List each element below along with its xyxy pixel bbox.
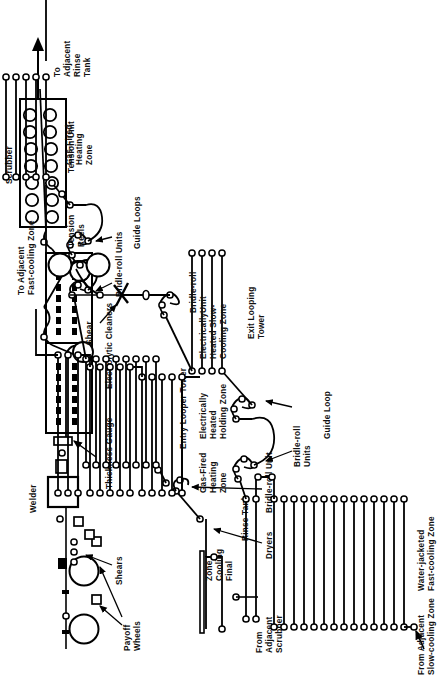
label-payoff-wheels-line2: Wheels — [133, 621, 142, 651]
tension-reel-1 — [49, 254, 72, 277]
label-from-slow-cooling-line1: From Adjacent — [417, 615, 426, 675]
payoff-guide-roll-1 — [63, 613, 69, 619]
label-tension-reels-line2: Reels — [77, 224, 86, 247]
label-water-jacketed-line1: Water-jacketed — [417, 530, 426, 591]
label-bridle-units-exit-line1: Bridle-roll — [293, 426, 302, 467]
thickness-gauge-head — [54, 437, 72, 445]
label-gas-fired-line3: Zone — [85, 144, 94, 165]
label-gas-fired-line1: Gas-Fired — [65, 125, 74, 165]
shear-roll-1 — [71, 559, 77, 565]
label-payoff-wheels-line1: Payoff — [123, 624, 132, 651]
welder-aux-1 — [56, 460, 67, 473]
bridle-entry-roll-2 — [177, 477, 183, 483]
label-shear-exit: Shear — [85, 320, 94, 345]
rinse-tank-lip — [200, 551, 204, 633]
shear-stand-1 — [85, 530, 94, 539]
welder-box — [48, 477, 78, 507]
cleaner-deflector-roll-1 — [41, 334, 47, 340]
label-to-rinse-line2: Adjacent — [63, 40, 72, 77]
shear-roll-2 — [71, 549, 77, 555]
payoff-support-1 — [92, 595, 101, 604]
label-exit-looping-line2: Tower — [257, 314, 266, 339]
payoff-wheel-1 — [70, 615, 99, 644]
shear-roll-4 — [57, 516, 63, 522]
welder-roll-1 — [59, 450, 65, 456]
label-entry-looper-tower: Entry Looper Tower — [179, 367, 188, 449]
shear-stand-2 — [74, 517, 83, 526]
label-final-cooling-line2: Cooling — [215, 549, 224, 581]
strip-tick-2 — [62, 590, 69, 594]
label-welder: Welder — [29, 484, 38, 513]
label-final-cooling-line1: Final — [225, 561, 234, 581]
strip-tick-1 — [62, 630, 69, 634]
label-from-scrubber-line3: Scrubber — [275, 614, 284, 653]
label-to-rinse-line3: Rinse — [73, 53, 82, 77]
label-to-rinse-line1: To — [53, 67, 62, 77]
label-guide-loop: Guide Loop — [323, 391, 332, 439]
label-tension-reels-line1: Tension — [67, 214, 76, 247]
label-guide-loops: Guide Loops — [133, 196, 142, 249]
label-dryers: Dryers — [265, 531, 274, 559]
label-from-scrubber-line1: From — [255, 632, 264, 653]
label-bridle-unit-exit-line1: Bridle-roll — [189, 272, 198, 313]
diagram-page: Payoff Wheels Shears Welder Thickness Ga… — [0, 0, 444, 689]
label-final-cooling-line3: Zone — [205, 560, 214, 581]
process-line-diagram: Payoff Wheels Shears Welder Thickness Ga… — [0, 0, 444, 689]
label-gas-fired-line2: Heating — [75, 133, 84, 165]
exit-measuring-roll — [143, 291, 149, 300]
tension-reel-2 — [87, 254, 110, 277]
label-from-scrubber-line2: Adjacent — [265, 616, 274, 653]
label-shears: Shears — [115, 556, 124, 585]
label-exit-looping-line1: Exit Looping — [247, 286, 256, 339]
label-water-jacketed-line2: Fast-cooling Zone — [427, 516, 436, 591]
label-bridle-unit-exit-line2: Unit — [199, 296, 208, 313]
rinse-roll-1 — [219, 626, 225, 632]
shear-roll-3 — [71, 539, 77, 545]
shear-blade-1 — [58, 558, 67, 569]
label-bridle-units-exit-line2: Units — [303, 445, 312, 467]
label-from-slow-cooling-line2: Slow-cooling Zone — [427, 598, 436, 675]
rotated-figure-container: Payoff Wheels Shears Welder Thickness Ga… — [0, 0, 444, 689]
label-to-rinse-line4: Tank — [83, 57, 92, 77]
